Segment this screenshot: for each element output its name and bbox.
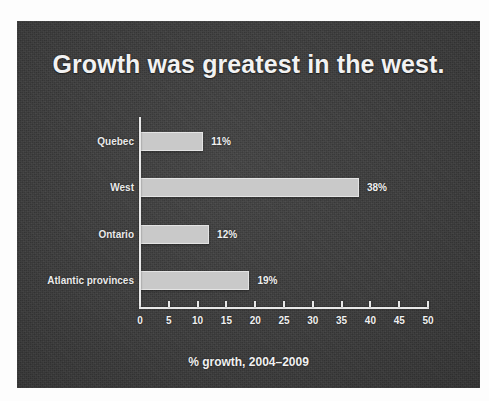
x-tick-45: [398, 301, 400, 307]
x-tick-label-30: 30: [298, 315, 328, 326]
x-tick-50: [427, 301, 429, 307]
x-tick-label-0: 0: [125, 315, 155, 326]
category-label-west: West: [110, 182, 134, 193]
x-tick-35: [341, 301, 343, 307]
x-tick-label-35: 35: [327, 315, 357, 326]
category-label-ontario: Ontario: [98, 229, 134, 240]
x-tick-label-45: 45: [384, 315, 414, 326]
x-tick-15: [225, 301, 227, 307]
category-label-quebec: Quebec: [97, 136, 134, 147]
bar-west: [140, 178, 359, 197]
x-tick-label-20: 20: [240, 315, 270, 326]
x-tick-label-10: 10: [183, 315, 213, 326]
bar-value-atlantic-provinces: 19%: [257, 275, 277, 286]
x-tick-10: [197, 301, 199, 307]
bar-quebec: [140, 132, 203, 151]
x-tick-label-15: 15: [211, 315, 241, 326]
y-axis-line: [139, 117, 141, 307]
x-tick-30: [312, 301, 314, 307]
bar-atlantic-provinces: [140, 271, 249, 290]
x-tick-label-40: 40: [355, 315, 385, 326]
x-tick-40: [369, 301, 371, 307]
x-tick-label-5: 5: [154, 315, 184, 326]
bar-chart: Quebec West Ontario Atlantic provinces 1…: [17, 21, 480, 388]
x-tick-label-25: 25: [269, 315, 299, 326]
bar-value-west: 38%: [367, 182, 387, 193]
x-tick-5: [168, 301, 170, 307]
screenshot-root: Growth was greatest in the west. Quebec …: [0, 0, 489, 401]
x-axis-line: [139, 307, 429, 309]
presentation-slide: Growth was greatest in the west. Quebec …: [17, 21, 480, 388]
x-tick-20: [254, 301, 256, 307]
bar-ontario: [140, 225, 209, 244]
bar-value-ontario: 12%: [217, 229, 237, 240]
x-axis-title: % growth, 2004–2009: [17, 355, 480, 369]
x-tick-25: [283, 301, 285, 307]
category-label-atlantic-provinces: Atlantic provinces: [47, 275, 134, 286]
bar-value-quebec: 11%: [211, 136, 230, 147]
x-tick-label-50: 50: [413, 315, 443, 326]
